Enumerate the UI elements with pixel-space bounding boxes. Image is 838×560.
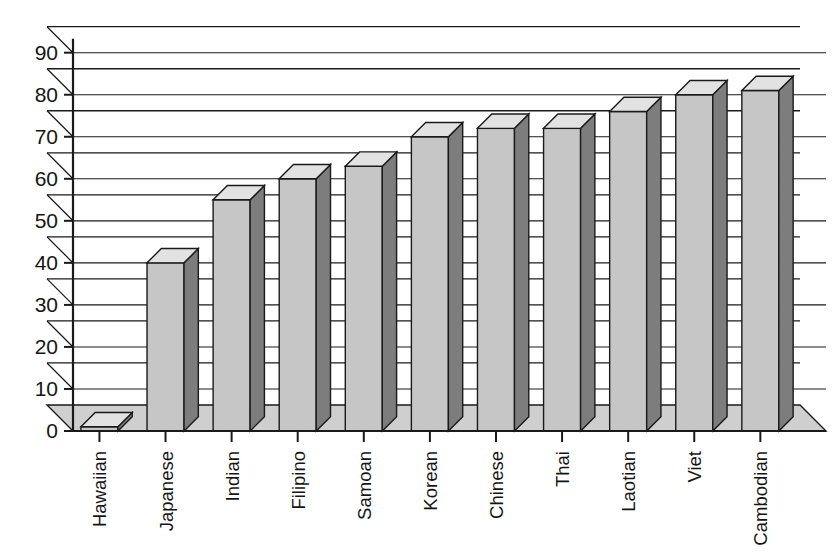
y-tick-label-60: 60 [35, 167, 58, 190]
bar-thai [544, 114, 595, 431]
y-tick-label-30: 30 [35, 293, 58, 316]
bar-samoan [345, 152, 396, 431]
bar-front-face [477, 128, 514, 431]
bar-front-face [147, 263, 184, 431]
bar-side-face [316, 165, 330, 432]
bar-front-face [411, 137, 448, 431]
x-axis-label-japanese: Japanese [156, 451, 177, 531]
bar-side-face [184, 249, 198, 431]
y-tick-label-80: 80 [35, 83, 58, 106]
y-tick-label-50: 50 [35, 209, 58, 232]
bar-cambodian [742, 76, 793, 431]
bar-chinese [477, 114, 528, 431]
bar-front-face [544, 128, 581, 431]
bar-side-face [250, 186, 264, 431]
x-axis-label-filipino: Filipino [288, 451, 309, 510]
bar-indian [213, 186, 264, 431]
bar-japanese [147, 249, 198, 431]
bar-filipino [279, 165, 330, 432]
bar-front-face [345, 166, 382, 431]
x-axis-label-viet: Viet [684, 451, 705, 483]
gridline-level-90 [47, 27, 800, 53]
bar-korean [411, 122, 462, 431]
y-tick-label-90: 90 [35, 41, 58, 64]
bar-side-face [514, 114, 528, 431]
bar-chart: 9080706050403020100HawaiianJapaneseIndia… [0, 0, 838, 560]
bar-side-face [779, 76, 793, 431]
bar-front-face [610, 112, 647, 431]
bar-front-face [279, 179, 316, 431]
x-axis-label-hawaiian: Hawaiian [89, 451, 110, 527]
y-tick-label-70: 70 [35, 125, 58, 148]
x-axis-label-korean: Korean [420, 451, 441, 511]
y-tick-label-0: 0 [46, 419, 58, 442]
x-axis-label-cambodian: Cambodian [750, 451, 771, 546]
x-axis-label-laotian: Laotian [618, 451, 639, 512]
bar-side-face [647, 97, 661, 431]
y-tick-label-10: 10 [35, 377, 58, 400]
bar-front-face [742, 91, 779, 431]
bars-group [81, 76, 793, 431]
bar-side-face [713, 80, 727, 431]
x-axis-label-chinese: Chinese [486, 451, 507, 519]
bar-side-face [448, 122, 462, 431]
bar-side-face [382, 152, 396, 431]
x-axis-label-indian: Indian [222, 451, 243, 501]
bar-laotian [610, 97, 661, 431]
x-axis-label-samoan: Samoan [354, 451, 375, 520]
bar-front-face [676, 95, 713, 431]
bar-side-face [581, 114, 595, 431]
y-tick-label-40: 40 [35, 251, 58, 274]
bar-front-face [213, 200, 250, 431]
x-axis-label-thai: Thai [552, 451, 573, 487]
bar-viet [676, 80, 727, 431]
y-tick-label-20: 20 [35, 335, 58, 358]
chart-canvas: 9080706050403020100HawaiianJapaneseIndia… [0, 0, 838, 560]
